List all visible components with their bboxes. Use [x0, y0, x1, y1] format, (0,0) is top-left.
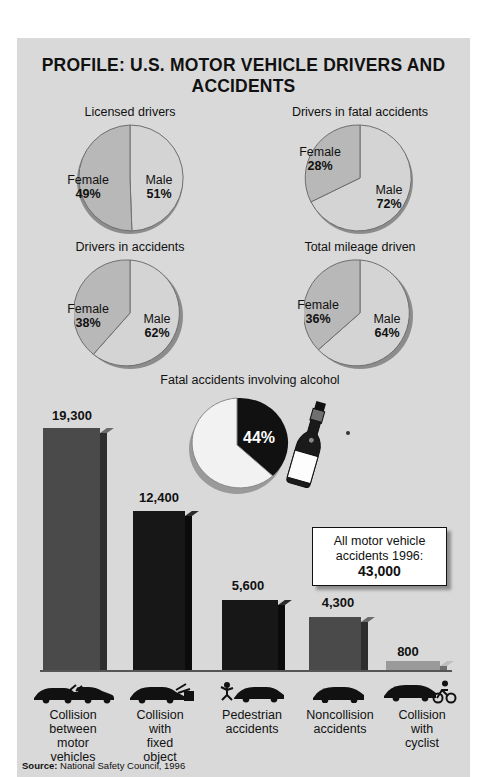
- source-note: Source: National Safety Council, 1996: [22, 760, 185, 771]
- bar-chart: 19,300 12,400 5,600 4,300 800: [0, 0, 490, 777]
- x-axis-label-pedestrian-accidents: Pedestrian accidents: [206, 708, 298, 736]
- x-axis-label-collision-with-fixed-object: Collision with fixed object: [120, 708, 200, 764]
- bar-side-face: [100, 433, 107, 670]
- callout-line-1: All motor vehicle: [334, 534, 426, 548]
- bar-collision-with-fixed-object: [133, 511, 185, 670]
- bar-value-label: 19,300: [28, 408, 116, 423]
- car-fixed-object-icon: [128, 682, 198, 704]
- single-car-icon: [310, 683, 368, 703]
- x-axis-label-collision-between-motor-vehicles: Collision between motor vehicles: [28, 708, 118, 764]
- bar-pedestrian-accidents: [222, 600, 278, 670]
- car-pedestrian-icon: [218, 680, 286, 704]
- callout-value: 43,000: [358, 563, 401, 579]
- bar-collision-between-motor-vehicles: [43, 428, 100, 670]
- car-cyclist-icon: [382, 680, 458, 704]
- bar-noncollision-accidents: [309, 617, 361, 670]
- bar-value-label: 800: [375, 644, 441, 659]
- bar-side-face: [361, 622, 368, 670]
- bar-side-face: [185, 516, 192, 670]
- bar-collision-with-cyclist: [386, 661, 440, 670]
- x-axis-label-noncollision-accidents: Noncollision accidents: [294, 708, 386, 736]
- x-axis-line: [40, 670, 452, 672]
- callout-line-2: accidents 1996:: [336, 549, 424, 563]
- bar-side-face: [278, 605, 285, 670]
- bar-value-label: 12,400: [118, 490, 200, 505]
- source-text: National Safety Council, 1996: [60, 760, 185, 771]
- x-axis-label-collision-with-cyclist: Collision with cyclist: [382, 708, 462, 750]
- bar-value-label: 5,600: [210, 578, 286, 593]
- source-prefix: Source:: [22, 760, 57, 771]
- callout-box-total-accidents: All motor vehicle accidents 1996: 43,000: [312, 527, 447, 586]
- bar-value-label: 4,300: [300, 595, 376, 610]
- two-cars-collision-icon: [30, 682, 116, 704]
